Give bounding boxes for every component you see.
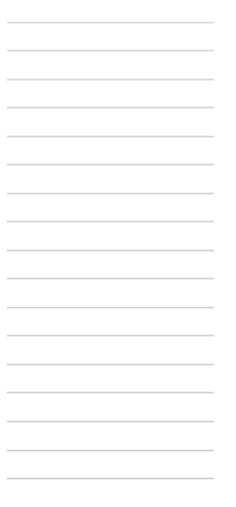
rule-line — [7, 50, 214, 51]
rule-line — [7, 250, 214, 251]
ruled-note-page — [0, 0, 236, 507]
rule-line — [7, 136, 214, 137]
rule-line — [7, 478, 214, 479]
rule-line — [7, 392, 214, 393]
writing-surface[interactable] — [0, 0, 236, 507]
rule-line — [7, 193, 214, 194]
rule-line — [7, 278, 214, 279]
rule-line — [7, 79, 214, 80]
rule-line — [7, 364, 214, 365]
rule-line — [7, 107, 214, 108]
rule-line — [7, 221, 214, 222]
rule-line — [7, 421, 214, 422]
rule-line — [7, 22, 214, 23]
rule-line — [7, 335, 214, 336]
rule-line — [7, 307, 214, 308]
rule-line — [7, 450, 214, 451]
rule-line — [7, 164, 214, 165]
